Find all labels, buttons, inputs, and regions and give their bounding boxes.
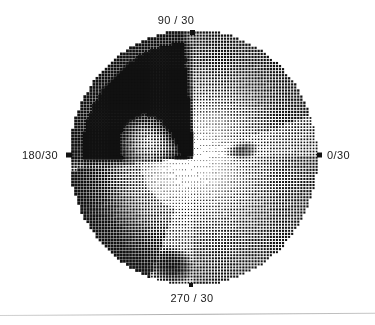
visual-field-plot: 90 / 30 180/30 0/30 270 / 30 [0, 0, 375, 325]
axis-label-180: 180/30 [22, 149, 58, 161]
visual-field-grayscale-canvas [0, 0, 375, 325]
meridian-tick-90 [190, 30, 195, 35]
meridian-tick-0 [317, 153, 322, 158]
axis-label-90: 90 / 30 [158, 14, 194, 26]
axis-label-270: 270 / 30 [171, 292, 214, 304]
axis-label-0: 0/30 [327, 149, 350, 161]
meridian-tick-270 [189, 283, 193, 287]
meridian-tick-180 [66, 153, 72, 158]
